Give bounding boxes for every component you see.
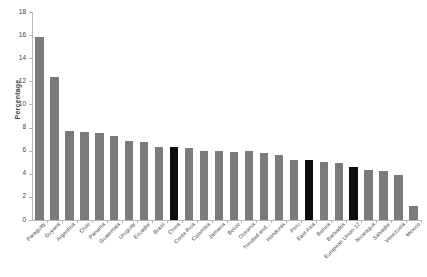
bar xyxy=(320,162,328,220)
y-tick-label: 0 xyxy=(2,217,26,224)
bar xyxy=(215,151,223,220)
bar xyxy=(80,132,88,220)
bar xyxy=(155,147,163,220)
bar xyxy=(349,167,357,220)
bar xyxy=(275,155,283,220)
bar xyxy=(35,37,43,220)
y-tick-label: 10 xyxy=(2,101,26,108)
bar xyxy=(260,153,268,220)
y-tick-mark xyxy=(29,197,32,198)
y-tick-mark xyxy=(29,35,32,36)
y-tick-label: 8 xyxy=(2,124,26,131)
bar xyxy=(50,77,58,220)
y-tick-label: 4 xyxy=(2,170,26,177)
bar xyxy=(110,136,118,220)
bar xyxy=(200,151,208,220)
bar xyxy=(364,170,372,220)
x-axis-labels: ParaguayGuyanaArgentinaChilePanamaGuatem… xyxy=(32,221,421,277)
y-tick-mark xyxy=(29,128,32,129)
bar xyxy=(335,163,343,220)
bar xyxy=(65,131,73,220)
bar xyxy=(230,152,238,220)
bar xyxy=(305,160,313,220)
y-tick-label: 6 xyxy=(2,147,26,154)
bar xyxy=(245,151,253,220)
x-tick-label: Mexico xyxy=(404,221,421,238)
x-tick-label: Paraguay xyxy=(26,221,47,242)
x-tick-label: Peru xyxy=(288,221,301,234)
bar xyxy=(290,160,298,220)
y-tick-label: 14 xyxy=(2,55,26,62)
y-tick-label: 2 xyxy=(2,193,26,200)
bar xyxy=(379,171,387,220)
bar xyxy=(409,206,417,220)
bar xyxy=(394,175,402,220)
y-tick-mark xyxy=(29,12,32,13)
bar xyxy=(140,142,148,220)
y-tick-mark xyxy=(29,81,32,82)
y-tick-mark xyxy=(29,104,32,105)
bar xyxy=(125,141,133,220)
bar xyxy=(95,133,103,220)
y-tick-mark xyxy=(29,58,32,59)
plot-area: 024681012141618 xyxy=(32,12,421,220)
y-tick-mark xyxy=(29,151,32,152)
bar xyxy=(185,148,193,220)
y-tick-label: 16 xyxy=(2,32,26,39)
bar-chart: Percentage 024681012141618 ParaguayGuyan… xyxy=(0,0,427,277)
y-tick-label: 12 xyxy=(2,78,26,85)
y-axis-line xyxy=(32,12,33,220)
bar xyxy=(170,147,178,220)
x-tick-mark xyxy=(421,220,422,223)
y-tick-label: 18 xyxy=(2,9,26,16)
y-tick-mark xyxy=(29,174,32,175)
x-tick-label: Brazil xyxy=(152,221,166,235)
